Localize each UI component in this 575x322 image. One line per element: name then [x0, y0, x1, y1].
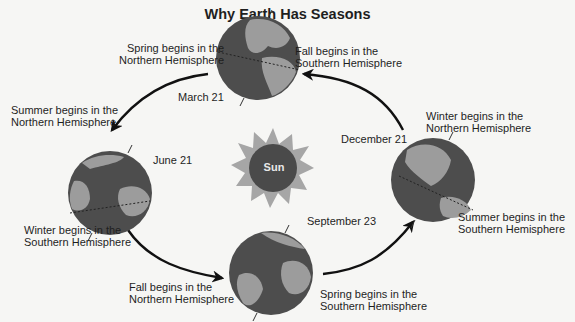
label-december-south: Summer begins in theSouthern Hemisphere: [458, 212, 565, 235]
date-december: December 21: [341, 133, 407, 145]
earth-globe-march: [216, 10, 300, 106]
label-march-south: Fall begins in theSouthern Hemisphere: [295, 46, 402, 69]
date-june: June 21: [153, 154, 192, 166]
arrow-june-to-september: [128, 230, 222, 278]
label-march-north: Spring begins in theNorthern Hemisphere: [119, 43, 224, 66]
label-december-north: Winter begins in theNorthern Hemisphere: [426, 111, 531, 134]
label-june-north: Summer begins in theNorthern Hemisphere: [11, 105, 118, 128]
label-september-south: Spring begins in theSouthern Hemisphere: [320, 289, 427, 312]
earth-globe-september: [229, 225, 313, 321]
date-september: September 23: [307, 215, 376, 227]
label-september-north: Fall begins in theNorthern Hemisphere: [129, 282, 234, 305]
arrow-september-to-december: [323, 222, 413, 274]
date-march: March 21: [178, 91, 224, 103]
sun-label: Sun: [254, 161, 294, 173]
label-june-south: Winter begins in theSouthern Hemisphere: [24, 225, 131, 248]
arrow-december-to-march: [304, 74, 403, 130]
